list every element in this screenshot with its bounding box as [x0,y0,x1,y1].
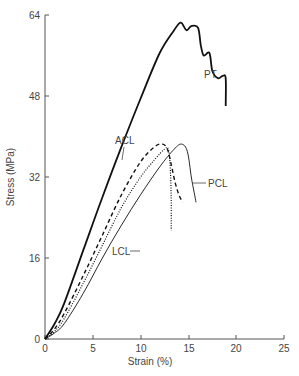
x-ticks: 0 5 10 15 20 25 [42,335,290,354]
acl-leader-line [122,147,124,160]
series-pcl-curve [45,144,196,339]
series-pt-curve [45,23,226,339]
y-ticks: 0 16 32 48 64 [29,10,49,345]
stress-strain-chart: 0 16 32 48 64 0 5 10 15 20 25 Strain (%)… [0,0,299,376]
x-tick-25: 25 [278,343,290,354]
y-tick-64: 64 [29,10,41,21]
x-axis-label: Strain (%) [128,356,172,367]
x-tick-10: 10 [135,343,147,354]
acl-label: ACL [115,135,135,146]
x-tick-20: 20 [230,343,242,354]
y-tick-0: 0 [34,334,40,345]
series-acl-curve [45,144,183,339]
y-axis-label: Stress (MPa) [5,148,16,206]
y-tick-16: 16 [29,253,41,264]
x-tick-15: 15 [183,343,195,354]
x-tick-5: 5 [90,343,96,354]
pt-label: PT [204,69,217,80]
x-tick-0: 0 [42,343,48,354]
y-tick-48: 48 [29,91,41,102]
lcl-label: LCL [112,246,131,257]
y-tick-32: 32 [29,172,41,183]
series-layer [45,23,226,339]
pcl-label: PCL [208,178,228,189]
series-lcl-curve [45,147,171,339]
